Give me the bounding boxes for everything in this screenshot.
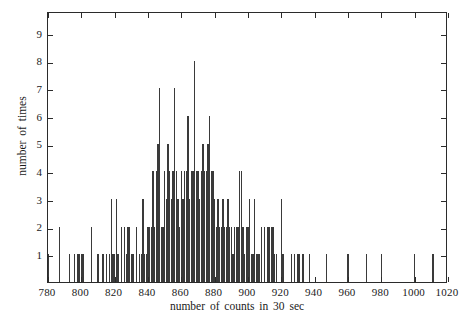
- histogram-bar: [59, 227, 61, 282]
- x-axis-tick: [381, 13, 382, 18]
- x-axis-tick: [215, 13, 216, 18]
- histogram-bar: [91, 227, 93, 282]
- histogram-bar: [294, 254, 296, 282]
- x-axis-tick: [81, 277, 82, 282]
- y-axis-tick: [48, 229, 53, 230]
- histogram-figure: 7808008208408608809009209409609801000102…: [0, 0, 474, 325]
- x-axis-tick: [181, 277, 182, 282]
- histogram-bar: [121, 227, 123, 282]
- x-axis-tick: [415, 277, 416, 282]
- x-axis-tick: [448, 13, 449, 18]
- histogram-bar: [261, 227, 263, 282]
- y-axis-tick: [48, 173, 53, 174]
- x-axis-tick: [348, 13, 349, 18]
- histogram-bar: [97, 254, 99, 282]
- histogram-bar: [291, 254, 293, 282]
- y-tick-label: 5: [30, 139, 42, 150]
- bars-layer: [48, 13, 446, 282]
- x-axis-tick: [148, 13, 149, 18]
- histogram-bar: [132, 254, 134, 282]
- y-axis-tick: [441, 146, 446, 147]
- y-axis-tick: [441, 90, 446, 91]
- histogram-bar: [102, 254, 104, 282]
- x-tick-label: 1020: [427, 286, 467, 299]
- y-tick-label: 9: [30, 29, 42, 40]
- histogram-bar: [282, 254, 284, 282]
- histogram-bar: [82, 254, 84, 282]
- x-axis-tick: [381, 277, 382, 282]
- x-axis-tick: [281, 277, 282, 282]
- x-axis-tick: [81, 13, 82, 18]
- y-axis-tick: [441, 201, 446, 202]
- histogram-bar: [326, 254, 328, 282]
- y-tick-label: 6: [30, 112, 42, 123]
- y-axis-tick: [48, 90, 53, 91]
- x-axis-tick: [115, 277, 116, 282]
- x-axis-tick: [115, 13, 116, 18]
- x-axis-tick: [48, 13, 49, 18]
- y-tick-label: 3: [30, 195, 42, 206]
- y-axis-tick: [48, 118, 53, 119]
- x-axis-tick: [448, 277, 449, 282]
- y-axis-tick: [441, 229, 446, 230]
- histogram-bar: [432, 254, 434, 282]
- y-tick-label: 8: [30, 56, 42, 67]
- histogram-bar: [106, 254, 108, 282]
- x-axis-tick: [248, 277, 249, 282]
- x-axis-tick: [215, 277, 216, 282]
- x-axis-tick: [48, 277, 49, 282]
- x-axis-tick: [315, 13, 316, 18]
- x-axis-tick: [281, 13, 282, 18]
- y-axis-tick: [441, 35, 446, 36]
- y-tick-label: 1: [30, 250, 42, 261]
- histogram-bar: [136, 227, 138, 282]
- y-axis-tick: [48, 146, 53, 147]
- x-axis-tick: [248, 13, 249, 18]
- y-axis-tick: [48, 256, 53, 257]
- y-tick-label: 4: [30, 167, 42, 178]
- y-axis-tick: [441, 63, 446, 64]
- y-axis-label: number of times: [16, 66, 28, 206]
- histogram-bar: [309, 254, 311, 282]
- y-axis-tick: [441, 173, 446, 174]
- histogram-bar: [302, 254, 304, 282]
- x-axis-tick: [315, 277, 316, 282]
- plot-area: [47, 12, 447, 283]
- x-axis-label: number of counts in 30 sec: [0, 300, 474, 312]
- y-axis-tick: [441, 256, 446, 257]
- y-axis-tick: [441, 118, 446, 119]
- x-axis-tick: [148, 277, 149, 282]
- histogram-bar: [69, 254, 71, 282]
- histogram-bar: [74, 254, 76, 282]
- x-axis-tick: [348, 277, 349, 282]
- y-axis-tick: [48, 63, 53, 64]
- x-axis-tick: [181, 13, 182, 18]
- y-axis-tick: [48, 35, 53, 36]
- histogram-bar: [299, 254, 301, 282]
- histogram-bar: [264, 227, 266, 282]
- y-tick-label: 2: [30, 222, 42, 233]
- y-tick-label: 7: [30, 84, 42, 95]
- y-axis-tick: [48, 201, 53, 202]
- x-axis-tick: [415, 13, 416, 18]
- histogram-bar: [366, 254, 368, 282]
- histogram-bar: [276, 254, 278, 282]
- histogram-bar: [117, 254, 119, 282]
